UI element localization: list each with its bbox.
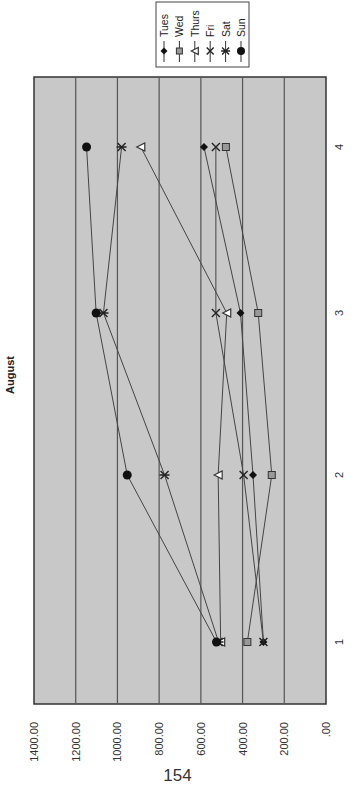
- legend-label: Fri: [204, 25, 216, 37]
- value-tick-label: 1200.00: [70, 722, 82, 762]
- circle-marker: [82, 143, 91, 152]
- legend-label: Wed: [173, 15, 185, 37]
- square-marker: [244, 639, 251, 646]
- plot-area: [34, 77, 326, 704]
- value-tick-label: 1400.00: [28, 722, 40, 762]
- square-marker: [222, 144, 229, 151]
- plot-background: [34, 77, 326, 704]
- chart-title-group: August: [4, 356, 16, 394]
- value-tick-label: 800.00: [153, 722, 165, 756]
- legend-label: Tues: [158, 14, 170, 37]
- legend-label: Thurs: [189, 10, 201, 37]
- value-axis-ticks: .00200.00400.00600.00800.001000.001200.0…: [28, 722, 332, 762]
- square-icon: [176, 48, 182, 54]
- page-number: 154: [0, 766, 355, 786]
- value-tick-label: 1000.00: [111, 722, 123, 762]
- circle-marker: [123, 471, 132, 480]
- legend-label: Sun: [235, 18, 247, 37]
- value-tick-label: 200.00: [278, 722, 290, 756]
- category-tick-label: 2: [333, 472, 345, 478]
- square-marker: [268, 472, 275, 479]
- value-tick-label: .00: [320, 722, 332, 737]
- category-tick-label: 1: [333, 639, 345, 645]
- category-tick-label: 4: [333, 144, 345, 150]
- line-chart: August .00200.00400.00600.00800.001000.0…: [0, 0, 355, 793]
- circle-icon: [237, 47, 245, 55]
- square-marker: [255, 310, 262, 317]
- circle-marker: [92, 309, 101, 318]
- legend-label: Sat: [220, 21, 232, 37]
- legend: TuesWedThursFriSatSun: [156, 2, 249, 67]
- category-axis-ticks: 1234: [333, 144, 345, 645]
- chart-title: August: [4, 356, 16, 394]
- value-tick-label: 400.00: [237, 722, 249, 756]
- category-tick-label: 3: [333, 310, 345, 316]
- value-tick-label: 600.00: [195, 722, 207, 756]
- circle-marker: [212, 638, 221, 647]
